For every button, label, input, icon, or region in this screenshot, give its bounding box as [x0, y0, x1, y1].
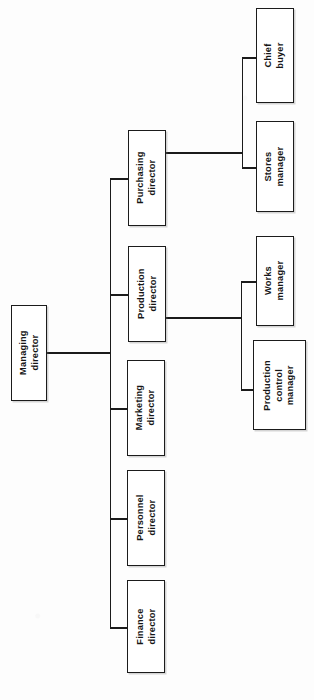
- node-finance-director[interactable]: Finance director: [127, 580, 165, 673]
- node-label: Chief buyer: [263, 42, 286, 68]
- node-stores-manager[interactable]: Stores manager: [256, 121, 294, 212]
- node-label: Purchasing director: [135, 152, 158, 204]
- node-label: Stores manager: [263, 147, 286, 187]
- node-production-control-manager[interactable]: Production control manager: [253, 340, 306, 430]
- edge-managing-to-trunk: [46, 352, 111, 354]
- node-purchasing-director[interactable]: Purchasing director: [128, 130, 166, 226]
- edge-trunk-to-personnel: [110, 518, 128, 520]
- edge-production-branch-vertical: [241, 281, 243, 391]
- edge-trunk-to-marketing: [110, 408, 128, 410]
- edge-trunk-to-production: [110, 294, 129, 296]
- edge-trunk-vertical: [110, 178, 112, 628]
- node-marketing-director[interactable]: Marketing director: [127, 360, 165, 456]
- edge-trunk-to-purchasing: [110, 178, 129, 180]
- edge-production-to-branch: [166, 317, 242, 319]
- node-label: Production director: [135, 269, 158, 320]
- node-chief-buyer[interactable]: Chief buyer: [256, 8, 294, 103]
- edge-purchasing-branch-vertical: [242, 57, 244, 169]
- edge-branch-to-works-manager: [241, 281, 257, 283]
- node-label: Marketing director: [134, 385, 157, 430]
- edge-branch-to-production-control: [241, 389, 254, 391]
- node-production-director[interactable]: Production director: [128, 246, 166, 342]
- edge-purchasing-to-branch: [166, 152, 243, 154]
- org-chart-page: Managing director Purchasing director Pr…: [0, 0, 314, 700]
- edge-trunk-to-finance: [110, 627, 128, 629]
- node-label: Production control manager: [262, 360, 297, 411]
- node-label: Managing director: [17, 331, 40, 376]
- node-label: Finance director: [134, 608, 157, 644]
- node-managing-director[interactable]: Managing director: [11, 305, 47, 401]
- node-label: Personnel director: [134, 495, 157, 541]
- edge-branch-to-stores-manager: [242, 167, 257, 169]
- edge-branch-to-chief-buyer: [242, 57, 257, 59]
- node-works-manager[interactable]: Works manager: [256, 236, 294, 326]
- node-label: Works manager: [263, 261, 286, 301]
- node-personnel-director[interactable]: Personnel director: [127, 470, 165, 566]
